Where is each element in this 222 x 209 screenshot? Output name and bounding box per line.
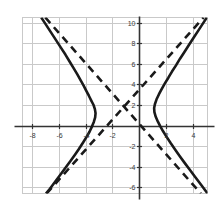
x-tick-label: -2: [109, 132, 115, 139]
y-tick-label: 6: [132, 61, 136, 68]
hyperbola-graph-figure: -8-6-4-224108642-2-4-6: [0, 0, 222, 209]
y-tick-label: -4: [129, 164, 135, 171]
x-tick-label: -4: [83, 132, 89, 139]
y-tick-label: 4: [132, 81, 136, 88]
x-tick-label: -8: [29, 132, 35, 139]
y-tick-label: 10: [128, 20, 136, 27]
y-tick-label: -6: [129, 184, 135, 191]
y-tick-label: -2: [129, 143, 135, 150]
y-tick-label: 8: [132, 40, 136, 47]
graph-canvas: -8-6-4-224108642-2-4-6: [0, 0, 222, 209]
x-tick-label: 4: [192, 132, 196, 139]
x-tick-label: 2: [165, 132, 169, 139]
x-tick-label: -6: [56, 132, 62, 139]
plot-background: [0, 0, 222, 209]
y-tick-label: 2: [132, 102, 136, 109]
